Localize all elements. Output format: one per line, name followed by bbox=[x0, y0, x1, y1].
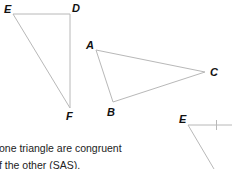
vertex-label-d: D bbox=[72, 3, 80, 14]
vertex-label-b: B bbox=[107, 107, 115, 118]
triangle-edf bbox=[13, 14, 70, 108]
vertex-label-a: A bbox=[86, 40, 94, 51]
vertex-label-f: F bbox=[66, 111, 73, 122]
body-text-line-2: f the other (SAS). bbox=[0, 160, 80, 169]
triangle-abc bbox=[96, 50, 205, 102]
vertex-label-e: E bbox=[4, 4, 11, 15]
vertex-label-e2: E bbox=[179, 114, 186, 125]
vertex-label-c: C bbox=[210, 67, 218, 78]
body-text-line-1: one triangle are congruent bbox=[0, 143, 122, 154]
partial-triangle-left-side bbox=[188, 125, 214, 169]
